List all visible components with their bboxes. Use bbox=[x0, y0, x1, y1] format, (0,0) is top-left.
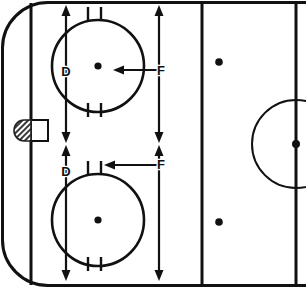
faceoff-dot-top bbox=[94, 62, 101, 69]
goal-crease bbox=[31, 120, 48, 141]
rink-boards bbox=[3, 3, 307, 286]
hockey-rink-diagram: D D F F bbox=[0, 0, 306, 288]
label-f-top: F bbox=[157, 63, 165, 78]
f-pointer-arrow-top bbox=[113, 66, 158, 75]
f-pointer-arrow-bottom bbox=[104, 161, 158, 170]
neutral-faceoff-dot-bottom bbox=[215, 218, 223, 226]
label-d-bottom: D bbox=[61, 164, 70, 179]
goal-net-icon bbox=[14, 120, 31, 141]
rink-canvas: D D F F bbox=[0, 0, 306, 288]
neutral-faceoff-dot-top bbox=[215, 58, 223, 66]
label-f-bottom: F bbox=[157, 157, 165, 172]
center-dot bbox=[292, 140, 300, 148]
faceoff-dot-bottom bbox=[94, 216, 101, 223]
label-d-top: D bbox=[61, 64, 70, 79]
